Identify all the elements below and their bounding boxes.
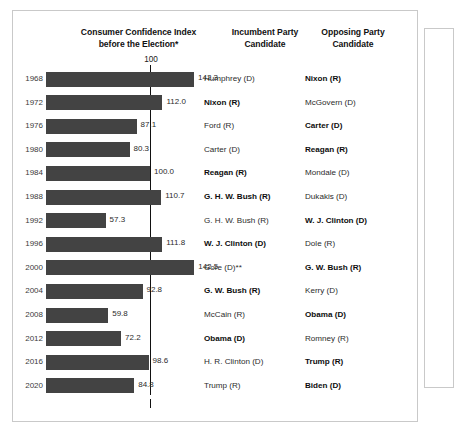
bar-value-label: 72.2 <box>125 333 141 342</box>
bar-track <box>46 308 108 323</box>
table-row: 202084.8Trump (R)Biden (D) <box>13 376 419 400</box>
row-year-label: 1996 <box>17 239 43 248</box>
table-row: 1984100.0Reagan (R)Mondale (D) <box>13 163 419 187</box>
table-row: 200492.8G. W. Bush (R)Kerry (D) <box>13 281 419 305</box>
plot-area: 1968142.3Humphrey (D)Nixon (R)1972112.0N… <box>13 11 419 423</box>
table-row: 1972112.0Nixon (R)McGovern (D) <box>13 93 419 117</box>
incumbent-candidate: G. H. W. Bush (R) <box>204 216 269 225</box>
incumbent-candidate: Obama (D) <box>204 334 245 343</box>
incumbent-candidate: Ford (R) <box>204 121 234 130</box>
bar-value-label: 57.3 <box>110 215 126 224</box>
bar-track <box>46 378 134 393</box>
opposing-candidate: Dole (R) <box>305 239 335 248</box>
value-bar <box>46 237 162 252</box>
opposing-candidate: Mondale (D) <box>305 168 350 177</box>
value-bar <box>46 355 149 370</box>
opposing-candidate: Kerry (D) <box>305 286 338 295</box>
incumbent-candidate: McCain (R) <box>204 310 245 319</box>
row-year-label: 2000 <box>17 263 43 272</box>
table-row: 1968142.3Humphrey (D)Nixon (R) <box>13 69 419 93</box>
opposing-candidate: Reagan (R) <box>305 145 348 154</box>
row-year-label: 1976 <box>17 121 43 130</box>
bar-track <box>46 355 149 370</box>
table-row: 201272.2Obama (D)Romney (R) <box>13 329 419 353</box>
row-year-label: 2016 <box>17 357 43 366</box>
opposing-candidate: Dukakis (D) <box>305 192 347 201</box>
bar-track <box>46 142 130 157</box>
opposing-candidate: W. J. Clinton (D) <box>305 216 367 225</box>
table-row: 1996111.8W. J. Clinton (D)Dole (R) <box>13 234 419 258</box>
row-year-label: 1988 <box>17 192 43 201</box>
incumbent-candidate: G. H. W. Bush (R) <box>204 192 271 201</box>
table-row: 201698.6H. R. Clinton (D)Trump (R) <box>13 352 419 376</box>
row-year-label: 2008 <box>17 310 43 319</box>
reference-line-bottom-tick <box>150 399 151 408</box>
opposing-candidate: Obama (D) <box>305 310 346 319</box>
bar-track <box>46 95 162 110</box>
opposing-candidate: Biden (D) <box>305 381 341 390</box>
value-bar <box>46 308 108 323</box>
opposing-candidate: Romney (R) <box>305 334 349 343</box>
value-bar <box>46 213 106 228</box>
bar-track <box>46 331 121 346</box>
table-row: 1988110.7G. H. W. Bush (R)Dukakis (D) <box>13 187 419 211</box>
row-year-label: 2020 <box>17 381 43 390</box>
incumbent-candidate: W. J. Clinton (D) <box>204 239 266 248</box>
value-bar <box>46 72 194 87</box>
value-bar <box>46 190 161 205</box>
table-row: 198080.3Carter (D)Reagan (R) <box>13 140 419 164</box>
table-row: 200859.8McCain (R)Obama (D) <box>13 305 419 329</box>
bar-value-label: 92.8 <box>147 285 163 294</box>
value-bar <box>46 166 150 181</box>
bar-value-label: 110.7 <box>165 191 184 200</box>
bar-value-label: 98.6 <box>153 356 169 365</box>
row-year-label: 1984 <box>17 168 43 177</box>
bar-track <box>46 284 143 299</box>
incumbent-candidate: Carter (D) <box>204 145 240 154</box>
opposing-candidate: Trump (R) <box>305 357 343 366</box>
table-row: 199257.3G. H. W. Bush (R)W. J. Clinton (… <box>13 211 419 235</box>
row-year-label: 1992 <box>17 216 43 225</box>
incumbent-candidate: Humphrey (D) <box>204 74 255 83</box>
value-bar <box>46 142 130 157</box>
incumbent-candidate: Trump (R) <box>204 381 241 390</box>
bar-value-label: 80.3 <box>134 144 150 153</box>
value-bar <box>46 260 194 275</box>
bar-value-label: 87.1 <box>141 120 157 129</box>
row-year-label: 2004 <box>17 286 43 295</box>
value-bar <box>46 378 134 393</box>
value-bar <box>46 119 137 134</box>
opposing-candidate: G. W. Bush (R) <box>305 263 361 272</box>
opposing-candidate: Carter (D) <box>305 121 342 130</box>
bar-track <box>46 72 194 87</box>
row-year-label: 1980 <box>17 145 43 154</box>
value-bar <box>46 95 162 110</box>
bar-track <box>46 119 137 134</box>
bar-value-label: 112.0 <box>166 97 185 106</box>
opposing-candidate: McGovern (D) <box>305 98 356 107</box>
value-bar <box>46 331 121 346</box>
bar-track <box>46 190 161 205</box>
adjacent-panel-sliver <box>424 28 454 388</box>
value-bar <box>46 284 143 299</box>
bar-value-label: 59.8 <box>112 309 128 318</box>
opposing-candidate: Nixon (R) <box>305 74 341 83</box>
table-row: 197687.1Ford (R)Carter (D) <box>13 116 419 140</box>
incumbent-candidate: Reagan (R) <box>204 168 247 177</box>
bar-track <box>46 213 106 228</box>
incumbent-candidate: Nixon (R) <box>204 98 240 107</box>
bar-track <box>46 237 162 252</box>
row-year-label: 1968 <box>17 74 43 83</box>
bar-track <box>46 260 194 275</box>
incumbent-candidate: H. R. Clinton (D) <box>204 357 263 366</box>
bar-value-label: 111.8 <box>166 238 185 247</box>
chart-panel: Consumer Confidence Index before the Ele… <box>12 10 418 422</box>
row-year-label: 2012 <box>17 334 43 343</box>
bar-track <box>46 166 150 181</box>
incumbent-candidate: G. W. Bush (R) <box>204 286 260 295</box>
row-year-label: 1972 <box>17 98 43 107</box>
bar-value-label: 100.0 <box>154 167 174 176</box>
table-row: 2000142.5Gore (D)**G. W. Bush (R) <box>13 258 419 282</box>
bar-value-label: 84.8 <box>138 380 154 389</box>
